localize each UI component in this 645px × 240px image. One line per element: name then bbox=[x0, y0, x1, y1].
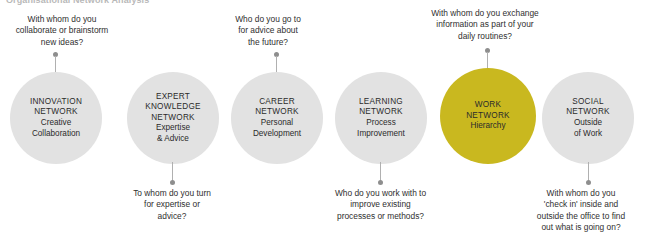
node-work-network[interactable]: WORK NETWORK Hierarchy bbox=[440, 68, 536, 164]
node-innovation-network[interactable]: INNOVATION NETWORK Creative Collaboratio… bbox=[10, 72, 102, 164]
connector-stem-learning bbox=[380, 162, 381, 181]
node-career-network-subtitle: Personal Development bbox=[253, 118, 301, 139]
node-social-network-title: SOCIAL NETWORK bbox=[566, 97, 610, 118]
caption-learning: Who do you work with to improve existing… bbox=[308, 188, 453, 222]
node-innovation-network-subtitle: Creative Collaboration bbox=[32, 118, 80, 139]
caption-work: With whom do you exchange information as… bbox=[400, 8, 570, 42]
node-social-network-subtitle: Outside of Work bbox=[574, 118, 602, 139]
node-learning-network[interactable]: LEARNING NETWORK Process Improvement bbox=[335, 72, 427, 164]
connector-dot-social bbox=[586, 180, 591, 185]
caption-social: With whom do you 'check in' inside and o… bbox=[517, 188, 645, 234]
caption-innovation: With whom do you collaborate or brainsto… bbox=[2, 14, 122, 48]
node-expert-knowledge-network-subtitle: Expertise & Advice bbox=[156, 123, 190, 144]
node-work-network-title: WORK NETWORK bbox=[466, 100, 510, 121]
caption-expert-knowledge: To whom do you turn for expertise or adv… bbox=[113, 188, 231, 222]
node-work-network-subtitle: Hierarchy bbox=[470, 121, 505, 132]
connector-stem-expert-knowledge bbox=[172, 162, 173, 181]
node-expert-knowledge-network[interactable]: EXPERT KNOWLEDGE NETWORK Expertise & Adv… bbox=[127, 72, 219, 164]
connector-dot-expert-knowledge bbox=[170, 180, 175, 185]
node-social-network[interactable]: SOCIAL NETWORK Outside of Work bbox=[542, 72, 634, 164]
node-expert-knowledge-network-title: EXPERT KNOWLEDGE NETWORK bbox=[145, 92, 200, 124]
node-innovation-network-title: INNOVATION NETWORK bbox=[30, 97, 82, 118]
node-career-network-title: CAREER NETWORK bbox=[255, 97, 299, 118]
connector-dot-learning bbox=[378, 180, 383, 185]
caption-career: Who do you go to for advice about the fu… bbox=[213, 14, 323, 48]
node-learning-network-subtitle: Process Improvement bbox=[357, 118, 405, 139]
connector-stem-social bbox=[588, 162, 589, 181]
node-career-network[interactable]: CAREER NETWORK Personal Development bbox=[231, 72, 323, 164]
network-diagram: Organisational Network Analysis With who… bbox=[0, 0, 645, 240]
node-learning-network-title: LEARNING NETWORK bbox=[359, 97, 403, 118]
page-title: Organisational Network Analysis bbox=[6, 0, 266, 6]
